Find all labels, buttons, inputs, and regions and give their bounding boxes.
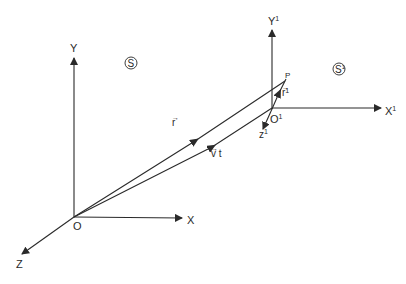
frame-s-prime-symbol: S1	[333, 63, 346, 75]
vector-vt-label: → v t	[211, 145, 222, 159]
z-axis	[22, 217, 74, 254]
svg-text:S: S	[128, 58, 135, 69]
x-prime-axis-label: X1	[385, 105, 396, 117]
svg-text:r1: r1	[282, 87, 289, 98]
x-axis-label: X	[187, 214, 195, 226]
y-prime-axis-label: Y1	[268, 15, 279, 27]
origin-o-prime-label: O1	[270, 113, 283, 125]
z-prime-axis-label: z1	[259, 128, 268, 140]
svg-text:v t: v t	[211, 148, 222, 159]
vectors	[74, 79, 286, 217]
vector-r	[74, 81, 285, 217]
frame-s-symbol: S	[125, 57, 137, 69]
y-axis-label: Y	[70, 42, 78, 54]
vector-r-prime-label: → r1	[282, 84, 289, 98]
reference-frames-diagram: Y X Z O S Y1 X1 z1 O1 S1 P → r → r1 → v	[0, 0, 406, 284]
frame-s-axes	[22, 58, 182, 254]
origin-o-label: O	[73, 220, 82, 232]
z-axis-label: Z	[16, 258, 23, 270]
point-p-label: P	[285, 71, 290, 80]
x-axis	[74, 217, 182, 218]
svg-text:S1: S1	[335, 64, 346, 75]
vector-r-label: → r	[172, 114, 179, 128]
